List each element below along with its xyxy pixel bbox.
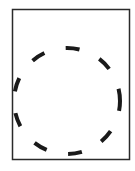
diagram-canvas xyxy=(0,0,135,171)
dashed-circle xyxy=(14,48,120,154)
frame-rectangle xyxy=(13,10,130,160)
